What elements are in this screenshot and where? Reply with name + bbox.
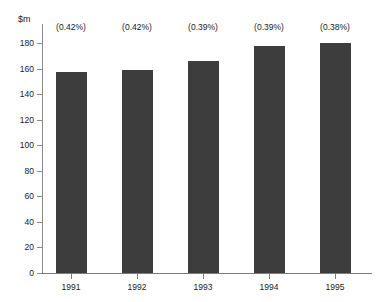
x-axis-tick-label-1994: 1994: [260, 282, 279, 292]
x-axis-tick-mark: [335, 274, 336, 279]
x-axis-tick-mark: [269, 274, 270, 279]
y-axis-tick-label: 80: [25, 166, 34, 176]
y-axis-tick-label: 60: [25, 191, 34, 201]
y-axis-unit-label: $m: [18, 14, 31, 24]
y-axis-tick-mark: [37, 94, 42, 95]
y-axis-tick-mark: [37, 247, 42, 248]
y-axis-tick-label: 180: [20, 38, 34, 48]
x-axis-tick-mark: [137, 274, 138, 279]
y-axis-tick-label: 20: [25, 242, 34, 252]
bar-1991: [56, 72, 87, 273]
y-axis-tick-mark: [37, 69, 42, 70]
y-axis-tick-label: 40: [25, 217, 34, 227]
bar-annotation-1993: (0.39%): [188, 22, 218, 32]
bar-annotation-1995: (0.38%): [320, 22, 350, 32]
bar-chart: $m 020406080100120140160180 (0.42%)(0.42…: [0, 0, 377, 302]
y-axis-tick-label: 100: [20, 140, 34, 150]
y-axis-tick-mark: [37, 273, 42, 274]
y-axis-line: [42, 24, 43, 274]
x-axis-tick-label-1991: 1991: [62, 282, 81, 292]
y-axis-tick-mark: [37, 145, 42, 146]
y-axis-tick-mark: [37, 43, 42, 44]
y-axis-tick-mark: [37, 196, 42, 197]
bar-annotation-1994: (0.39%): [254, 22, 284, 32]
x-axis-tick-label-1993: 1993: [194, 282, 213, 292]
bar-1992: [122, 70, 153, 273]
y-axis-tick-label: 0: [29, 268, 34, 278]
bar-annotation-1991: (0.42%): [56, 22, 86, 32]
x-axis-tick-label-1995: 1995: [326, 282, 345, 292]
bar-1994: [254, 46, 285, 273]
y-axis-tick-mark: [37, 222, 42, 223]
bar-1995: [320, 43, 351, 273]
y-axis-tick-label: 160: [20, 64, 34, 74]
bar-annotation-1992: (0.42%): [122, 22, 152, 32]
plot-area: $m 020406080100120140160180 (0.42%)(0.42…: [0, 0, 377, 302]
x-axis-line: [42, 273, 372, 274]
y-axis-tick-mark: [37, 171, 42, 172]
x-axis-tick-mark: [203, 274, 204, 279]
y-axis-tick-label: 120: [20, 115, 34, 125]
bar-1993: [188, 61, 219, 273]
x-axis-tick-label-1992: 1992: [128, 282, 147, 292]
y-axis-tick-label: 140: [20, 89, 34, 99]
x-axis-tick-mark: [71, 274, 72, 279]
y-axis-tick-mark: [37, 120, 42, 121]
